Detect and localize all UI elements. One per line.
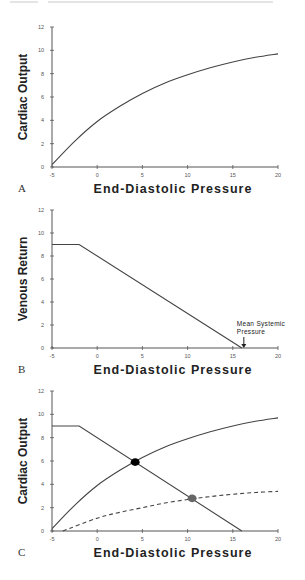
y-tick-label: 6	[41, 276, 44, 282]
y-tick-label: 12	[38, 207, 44, 213]
y-axis-title: Cardiac Output	[16, 418, 30, 505]
y-tick-label: 8	[41, 71, 44, 77]
y-tick-label: 2	[41, 141, 44, 147]
y-tick-label: 4	[41, 299, 44, 305]
y-tick-label: 2	[41, 322, 44, 328]
y-tick-label: 8	[41, 253, 44, 259]
x-tick-label: -5	[50, 353, 55, 359]
y-tick-label: 10	[38, 411, 44, 417]
solid-curve	[52, 418, 278, 529]
solid-curve	[52, 54, 278, 165]
x-tick-label: 0	[96, 536, 99, 542]
x-axis-title: End-Diastolic Pressure	[94, 546, 253, 560]
y-tick-label: 6	[41, 458, 44, 464]
y-tick-label: 12	[38, 388, 44, 394]
panel-label: B	[18, 363, 25, 375]
equilibrium-point	[188, 495, 197, 503]
solid-curve	[52, 426, 242, 531]
solid-curve	[52, 245, 242, 349]
y-tick-label: 8	[41, 435, 44, 441]
y-tick-label: 6	[41, 94, 44, 100]
x-tick-label: 10	[185, 536, 191, 542]
y-tick-label: 0	[41, 345, 44, 351]
panel-label: C	[18, 546, 25, 558]
x-tick-label: -5	[50, 172, 55, 178]
y-tick-label: 4	[41, 481, 44, 487]
annotation-line-1: Mean Systemic	[237, 320, 286, 328]
y-axis-title: Cardiac Output	[16, 54, 30, 141]
x-tick-label: 20	[275, 172, 281, 178]
x-tick-label: 5	[141, 536, 144, 542]
y-tick-label: 4	[41, 117, 44, 123]
x-axis-title: End-Diastolic Pressure	[94, 182, 253, 196]
y-tick-label: 10	[38, 47, 44, 53]
y-tick-label: 0	[41, 528, 44, 534]
y-axis-title: Venous Return	[16, 237, 30, 322]
y-tick-label: 12	[38, 24, 44, 30]
x-tick-label: 10	[185, 172, 191, 178]
x-tick-label: 15	[230, 536, 236, 542]
x-tick-label: 10	[185, 353, 191, 359]
panel-label: A	[18, 182, 26, 194]
x-tick-label: 0	[96, 172, 99, 178]
x-tick-label: 5	[141, 172, 144, 178]
x-tick-label: 15	[230, 172, 236, 178]
figure: 024681012-505101520End-Diastolic Pressur…	[0, 0, 305, 580]
x-axis-title: End-Diastolic Pressure	[94, 363, 253, 377]
x-tick-label: 5	[141, 353, 144, 359]
x-tick-label: 20	[275, 353, 281, 359]
equilibrium-point	[131, 458, 140, 466]
y-tick-label: 0	[41, 164, 44, 170]
x-tick-label: 15	[230, 353, 236, 359]
x-tick-label: 0	[96, 353, 99, 359]
annotation-arrow-head	[241, 344, 246, 348]
x-tick-label: -5	[50, 536, 55, 542]
y-tick-label: 2	[41, 505, 44, 511]
x-tick-label: 20	[275, 536, 281, 542]
dashed-curve	[63, 491, 278, 531]
y-tick-label: 10	[38, 230, 44, 236]
annotation-line-2: Pressure	[237, 328, 265, 335]
